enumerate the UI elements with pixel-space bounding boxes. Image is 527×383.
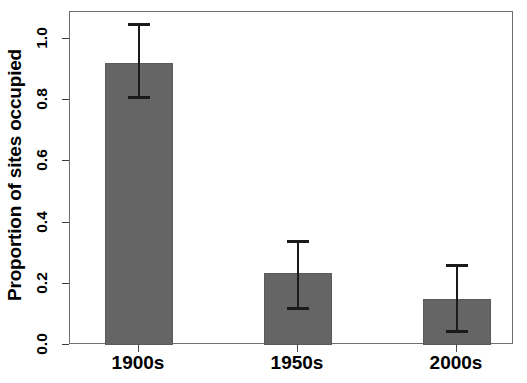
x-tick-label-2000s: 2000s — [396, 352, 516, 374]
y-tick-label: 0.6 — [25, 151, 59, 169]
x-tick-mark — [138, 344, 139, 352]
plot-area — [69, 11, 513, 344]
y-tick-label: 0.2 — [25, 274, 59, 292]
errorbar-stem-1950s — [297, 241, 299, 308]
bar-chart-figure: Proportion of sites occupied 0.00.20.40.… — [0, 0, 527, 383]
y-tick-mark — [62, 222, 69, 223]
y-axis-title: Proportion of sites occupied — [0, 0, 30, 350]
y-tick-label-text: 0.4 — [33, 211, 51, 233]
y-tick-mark — [62, 283, 69, 284]
x-tick-label-1950s: 1950s — [237, 352, 357, 374]
errorbar-stem-1900s — [138, 24, 140, 97]
x-tick-mark — [297, 344, 298, 352]
y-tick-mark — [62, 38, 69, 39]
y-tick-mark — [62, 99, 69, 100]
y-tick-label-text: 0.0 — [33, 333, 51, 355]
errorbar-cap-lower-2000s — [446, 330, 468, 333]
errorbar-cap-upper-1900s — [128, 23, 150, 26]
x-tick-label-1900s: 1900s — [78, 352, 198, 374]
y-tick-label: 0.4 — [25, 213, 59, 231]
y-axis-title-text: Proportion of sites occupied — [4, 49, 26, 301]
y-tick-label: 1.0 — [25, 29, 59, 47]
figure-caption — [0, 374, 527, 383]
y-tick-mark — [62, 160, 69, 161]
errorbar-cap-upper-2000s — [446, 264, 468, 267]
y-tick-label: 0.0 — [25, 335, 59, 353]
y-tick-label-text: 1.0 — [33, 27, 51, 49]
errorbar-cap-lower-1950s — [287, 307, 309, 310]
errorbar-cap-lower-1900s — [128, 96, 150, 99]
y-tick-mark — [62, 344, 69, 345]
y-tick-label-text: 0.8 — [33, 88, 51, 110]
y-tick-label: 0.8 — [25, 90, 59, 108]
y-tick-label-text: 0.2 — [33, 272, 51, 294]
y-tick-label-text: 0.6 — [33, 150, 51, 172]
errorbar-stem-2000s — [456, 265, 458, 331]
errorbar-cap-upper-1950s — [287, 240, 309, 243]
x-tick-mark — [456, 344, 457, 352]
bar-1900s — [105, 63, 173, 345]
